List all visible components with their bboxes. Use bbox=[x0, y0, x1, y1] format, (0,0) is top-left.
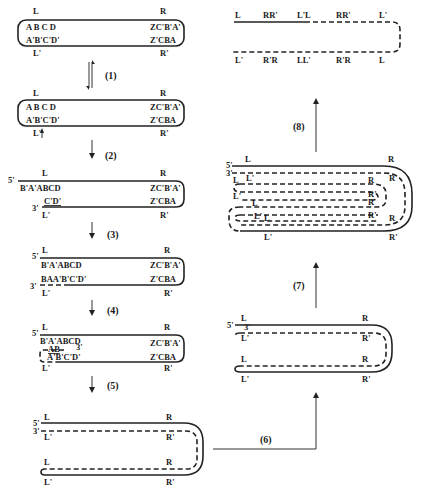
stage-5: 5' 3' L R L' R' L R L' R' bbox=[33, 412, 203, 487]
seq-bottom-right: Z'CBA bbox=[150, 352, 177, 362]
label-L: L bbox=[233, 175, 239, 185]
label-R: R bbox=[160, 168, 167, 178]
label-R: R bbox=[160, 88, 167, 98]
label-R: R bbox=[164, 322, 171, 332]
seq-bottom-left: BAA'B'C'D' bbox=[41, 274, 86, 284]
seq-bottom-left: C'D' bbox=[44, 196, 61, 206]
label-L-prime: L' bbox=[254, 211, 262, 221]
label-R-prime: R' bbox=[160, 48, 169, 58]
step-label-5: (5) bbox=[107, 380, 119, 392]
label-R-prime: R' bbox=[389, 173, 398, 183]
step-label-1: (1) bbox=[105, 70, 117, 82]
label-R-prime: R' bbox=[166, 432, 175, 442]
label-R-prime: R' bbox=[160, 128, 169, 138]
step-label-2: (2) bbox=[105, 150, 117, 162]
arrow-down-icon bbox=[89, 153, 95, 159]
label-R: R bbox=[166, 457, 173, 467]
label-bottom-0: L' bbox=[235, 55, 243, 65]
label-bottom-3: R'R bbox=[336, 55, 352, 65]
arrow-up-icon bbox=[313, 392, 319, 398]
label-L-prime: L' bbox=[42, 288, 50, 298]
seq-bottom-left: A'B'C'D' bbox=[47, 352, 81, 362]
seq-bottom-right: Z'CBA bbox=[150, 35, 177, 45]
step-label-8: (8) bbox=[293, 121, 305, 133]
label-L-prime: L' bbox=[241, 374, 249, 384]
seq-bottom-left: A'B'C'D' bbox=[26, 35, 60, 45]
label-top-0: L bbox=[235, 10, 241, 20]
label-L-prime: L' bbox=[42, 363, 50, 373]
label-L-prime: L' bbox=[44, 432, 52, 442]
seq-top-right: ZC'B'A' bbox=[150, 260, 181, 270]
label-top-3: RR' bbox=[336, 10, 351, 20]
label-R: R bbox=[362, 354, 369, 364]
label-L-prime: L' bbox=[241, 333, 249, 343]
label-L: L bbox=[252, 198, 258, 208]
label-R-prime: R' bbox=[362, 374, 371, 384]
arrow-down-icon bbox=[89, 387, 95, 393]
label-R-prime: R' bbox=[389, 232, 398, 242]
label-L-prime: L' bbox=[246, 173, 254, 183]
label-R-prime: R' bbox=[166, 477, 175, 487]
stage-8: L RR' L'L RR' L' L' R'R LL' R'R L bbox=[232, 10, 400, 65]
seq-bottom-right: Z'CBA bbox=[150, 115, 177, 125]
three-prime-label: 3' bbox=[226, 168, 233, 178]
arrow-down-icon bbox=[89, 310, 95, 316]
hairpin-cap-lower bbox=[235, 366, 240, 372]
stage-0: L R A B C D ZC'B'A' A'B'C'D' Z'CBA L' R' bbox=[18, 6, 184, 58]
stage-6: 5' 3' L R L' R' L R L' R' bbox=[227, 313, 392, 384]
hairpin-left-2 bbox=[229, 207, 240, 231]
step-label-6: (6) bbox=[260, 434, 272, 446]
step-4: (4) bbox=[89, 300, 119, 317]
label-L: L bbox=[44, 457, 50, 467]
seq-bottom-right: Z'CBA bbox=[150, 196, 177, 206]
step-5: (5) bbox=[89, 376, 119, 393]
label-R: R bbox=[362, 313, 369, 323]
stage-3: 5' L R B'A'ABCD ZC'B'A' BAA'B'C'D' Z'CBA… bbox=[30, 245, 184, 298]
new-strand bbox=[232, 22, 400, 52]
five-prime-label: 5' bbox=[32, 251, 39, 261]
label-R: R bbox=[388, 154, 395, 164]
label-L-prime: L' bbox=[33, 128, 41, 138]
label-R: R bbox=[368, 175, 375, 185]
label-bottom-4: L bbox=[379, 55, 385, 65]
seq-bottom-right: Z'CBA bbox=[150, 274, 177, 284]
label-top-1: RR' bbox=[263, 10, 278, 20]
label-L-prime: L' bbox=[264, 232, 272, 242]
five-prime-label: 5' bbox=[227, 320, 234, 330]
label-R-prime: R' bbox=[362, 333, 371, 343]
replication-diagram: L R A B C D ZC'B'A' A'B'C'D' Z'CBA L' R'… bbox=[0, 0, 421, 489]
seq-top-left: A B C D bbox=[26, 102, 56, 112]
label-top-2: L'L bbox=[297, 10, 311, 20]
label-top-4: L' bbox=[379, 10, 387, 20]
label-L: L bbox=[241, 354, 247, 364]
label-R-prime: R' bbox=[164, 288, 173, 298]
label-bottom-2: LL' bbox=[297, 55, 311, 65]
label-R: R bbox=[164, 245, 171, 255]
five-prime-label: 5' bbox=[8, 175, 15, 185]
three-prime-label: 3' bbox=[33, 426, 40, 436]
seq-top-right: ZC'B'A' bbox=[150, 22, 181, 32]
label-L: L bbox=[264, 213, 270, 223]
label-R: R bbox=[166, 412, 173, 422]
stage-7: 5' 3' L R L' R' L R L' R' R L R' L' L R … bbox=[226, 154, 412, 242]
label-R: R bbox=[160, 6, 167, 16]
arrow-down-icon bbox=[89, 233, 95, 239]
seq-top-left: B'A'ABCD bbox=[40, 336, 81, 346]
step-3: (3) bbox=[89, 222, 119, 241]
seq-top-left: A B C D bbox=[26, 22, 56, 32]
label-R-prime: R' bbox=[368, 210, 377, 220]
five-prime-label: 5' bbox=[32, 328, 39, 338]
label-R: R bbox=[368, 197, 375, 207]
label-L: L bbox=[42, 168, 48, 178]
label-bottom-1: R'R bbox=[263, 55, 279, 65]
hairpin-cap bbox=[41, 469, 45, 475]
label-L-prime: L' bbox=[233, 191, 241, 201]
three-prime-label: 3' bbox=[30, 281, 37, 291]
strand-layer-2 bbox=[240, 184, 386, 207]
three-prime-label: 3' bbox=[76, 342, 83, 352]
label-L-prime: L' bbox=[33, 48, 41, 58]
label-L-prime: L' bbox=[42, 210, 50, 220]
seq-top-right: ZC'B'A' bbox=[150, 338, 181, 348]
step-label-7: (7) bbox=[293, 280, 305, 292]
seq-top-right: ZC'B'A' bbox=[150, 102, 181, 112]
